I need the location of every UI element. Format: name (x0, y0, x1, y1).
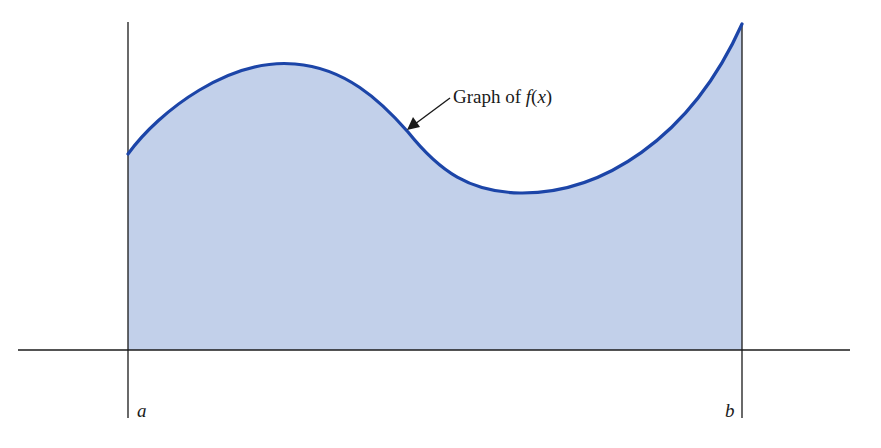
curve-label: Graph of f(x) (453, 86, 552, 108)
shaded-area (128, 24, 742, 350)
area-under-curve-diagram (0, 0, 881, 448)
curve-label-variable: x (537, 86, 545, 107)
arrowhead-icon (407, 117, 420, 130)
label-arrow-line (415, 98, 450, 124)
curve-label-prefix: Graph of (453, 86, 526, 107)
curve-label-close-paren: ) (546, 86, 552, 107)
left-endpoint-label: a (137, 400, 147, 422)
right-endpoint-label: b (725, 400, 735, 422)
